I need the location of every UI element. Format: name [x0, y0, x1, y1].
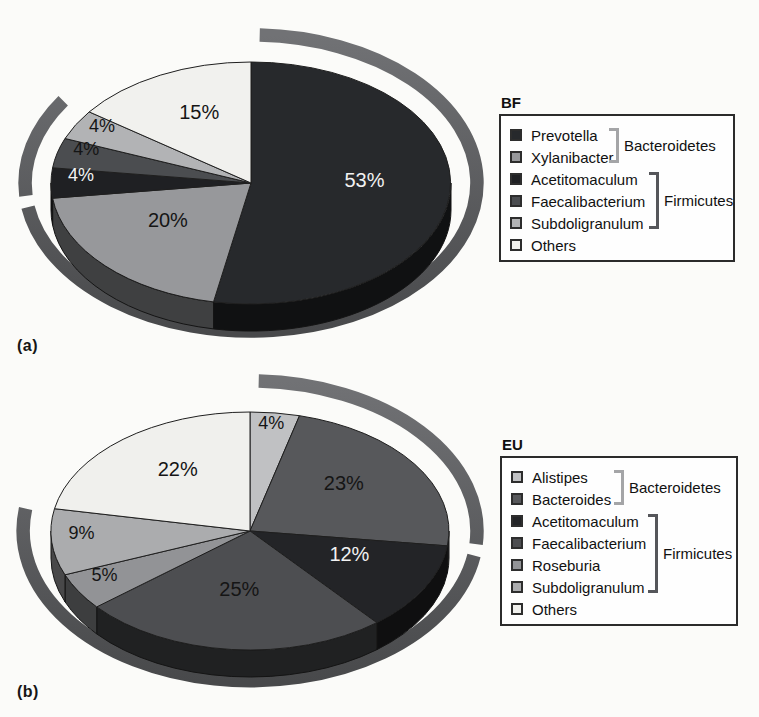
- legend-a-item-acetitomaculum: Acetitomaculum: [510, 168, 638, 190]
- legend-a-item-prevotella: Prevotella: [510, 124, 598, 146]
- legend-a-item-subdoligranulum: Subdoligranulum: [510, 212, 644, 234]
- others-color-chip: [511, 603, 523, 615]
- panel-a-label: (a): [17, 337, 38, 355]
- legend-item-label: Acetitomaculum: [531, 171, 638, 188]
- pie-a-value-label-acetitomaculum: 4%: [68, 165, 94, 185]
- alistipes-color-chip: [511, 471, 523, 483]
- xylanibacter-color-chip: [510, 151, 522, 163]
- acetitomaculum-color-chip: [511, 515, 523, 527]
- subdoligranulum-color-chip: [511, 581, 523, 593]
- roseburia-color-chip: [511, 559, 523, 571]
- pie-b-value-label-subdoligranulum: 9%: [69, 523, 95, 543]
- legend-item-label: Others: [532, 601, 577, 618]
- legend-item-label: Bacteroides: [532, 491, 611, 508]
- legend-b-item-bacteroides: Bacteroides: [511, 488, 611, 510]
- panel-b-label: (b): [17, 683, 39, 701]
- legend-eu-title: EU: [502, 436, 738, 453]
- pie-b: 4%23%12%25%5%9%22%: [23, 381, 477, 681]
- pie-a-value-label-subdoligranulum: 4%: [89, 116, 115, 136]
- faecalibacterium-color-chip: [511, 537, 523, 549]
- pie-a-value-label-prevotella: 53%: [344, 169, 384, 191]
- legend-b-bracket-firmicutes: [648, 514, 658, 593]
- legend-item-label: Xylanibacter: [531, 149, 614, 166]
- legend-bf-box: PrevotellaXylanibacterAcetitomaculumFaec…: [499, 114, 735, 262]
- gut-microbiota-pie-figure: 53%20%4%4%4%15%4%23%12%25%5%9%22% (a) (b…: [0, 0, 759, 717]
- legend-item-label: Acetitomaculum: [532, 513, 639, 530]
- legend-item-label: Subdoligranulum: [531, 215, 644, 232]
- legend-a-bracket-bacteroidetes: [609, 128, 619, 163]
- legend-bf-title: BF: [501, 94, 735, 111]
- legend-eu-box: AlistipesBacteroidesAcetitomaculumFaecal…: [500, 456, 738, 626]
- legend-b-item-roseburia: Roseburia: [511, 554, 600, 576]
- bacteroides-color-chip: [511, 493, 523, 505]
- legend-item-label: Faecalibacterium: [531, 193, 645, 210]
- subdoligranulum-color-chip: [510, 217, 522, 229]
- pie-a: 53%20%4%4%4%15%: [25, 35, 477, 331]
- legend-b-item-others: Others: [511, 598, 577, 620]
- legend-eu: EU AlistipesBacteroidesAcetitomaculumFae…: [500, 436, 738, 626]
- others-color-chip: [510, 239, 522, 251]
- legend-b-item-subdoligranulum: Subdoligranulum: [511, 576, 645, 598]
- legend-b-bracket-bacteroidetes: [614, 470, 624, 505]
- legend-b-group-label-firmicutes: Firmicutes: [663, 545, 732, 562]
- pie-a-value-label-others: 15%: [179, 101, 219, 123]
- acetitomaculum-color-chip: [510, 173, 522, 185]
- legend-item-label: Subdoligranulum: [532, 579, 645, 596]
- legend-b-group-label-bacteroidetes: Bacteroidetes: [629, 479, 721, 496]
- prevotella-color-chip: [510, 129, 522, 141]
- legend-item-label: Others: [531, 237, 576, 254]
- pie-b-value-label-acetitomaculum: 12%: [329, 543, 369, 565]
- legend-a-group-label-bacteroidetes: Bacteroidetes: [624, 137, 716, 154]
- legend-item-label: Roseburia: [532, 557, 600, 574]
- pie-b-value-label-alistipes: 4%: [258, 413, 284, 433]
- legend-a-item-xylanibacter: Xylanibacter: [510, 146, 614, 168]
- pie-b-value-label-faecalibacterium: 25%: [219, 578, 259, 600]
- legend-item-label: Faecalibacterium: [532, 535, 646, 552]
- pie-b-value-label-bacteroides: 23%: [324, 472, 364, 494]
- pie-a-value-label-faecalibacterium: 4%: [73, 139, 99, 159]
- pie-b-value-label-others: 22%: [158, 458, 198, 480]
- legend-a-bracket-firmicutes: [649, 172, 659, 229]
- legend-bf: BF PrevotellaXylanibacterAcetitomaculumF…: [499, 94, 735, 262]
- pie-b-value-label-roseburia: 5%: [91, 565, 117, 585]
- legend-b-item-faecalibacterium: Faecalibacterium: [511, 532, 646, 554]
- faecalibacterium-color-chip: [510, 195, 522, 207]
- legend-b-item-acetitomaculum: Acetitomaculum: [511, 510, 639, 532]
- legend-b-item-alistipes: Alistipes: [511, 466, 588, 488]
- pie-a-value-label-xylanibacter: 20%: [148, 209, 188, 231]
- legend-item-label: Prevotella: [531, 127, 598, 144]
- legend-a-item-others: Others: [510, 234, 576, 256]
- legend-a-group-label-firmicutes: Firmicutes: [664, 192, 733, 209]
- legend-item-label: Alistipes: [532, 469, 588, 486]
- legend-a-item-faecalibacterium: Faecalibacterium: [510, 190, 645, 212]
